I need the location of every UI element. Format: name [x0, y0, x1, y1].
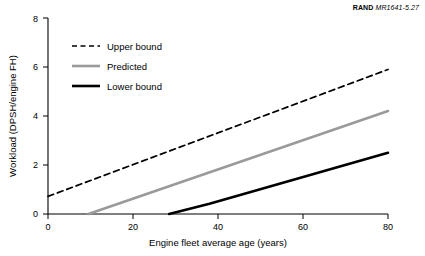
chart-figure: RAND MR1641-5.27 0 2 4 6 8: [0, 0, 425, 256]
y-axis-title: Workload (DPSH/engine FH): [7, 55, 18, 177]
legend-label-lower-bound: Lower bound: [107, 81, 162, 92]
x-tick-label-20: 20: [128, 222, 138, 232]
x-tick-label-40: 40: [213, 222, 223, 232]
x-tick-label-60: 60: [298, 222, 308, 232]
y-tick-label-0: 0: [33, 209, 38, 219]
x-axis-title: Engine fleet average age (years): [149, 237, 287, 248]
y-tick-group: 0 2 4 6 8: [33, 14, 48, 219]
x-tick-label-0: 0: [45, 222, 50, 232]
plot-area: 0 2 4 6 8 0 20 40 60 80 Engine fleet ave: [0, 0, 425, 256]
legend-label-predicted: Predicted: [107, 61, 147, 72]
line-chart: 0 2 4 6 8 0 20 40 60 80 Engine fleet ave: [0, 0, 425, 256]
y-tick-label-2: 2: [33, 160, 38, 170]
x-tick-group: 0 20 40 60 80: [45, 214, 393, 232]
y-tick-label-6: 6: [33, 62, 38, 72]
x-tick-label-80: 80: [383, 222, 393, 232]
y-tick-label-8: 8: [33, 14, 38, 24]
legend-label-upper-bound: Upper bound: [107, 41, 162, 52]
plot-background: [48, 18, 388, 214]
y-tick-label-4: 4: [33, 111, 38, 121]
